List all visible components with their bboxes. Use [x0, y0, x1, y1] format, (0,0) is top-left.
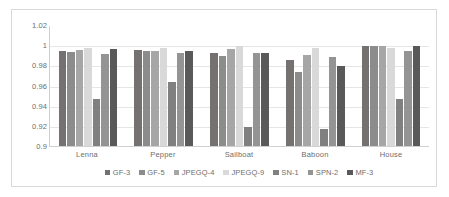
bar-group	[353, 26, 429, 146]
bar[interactable]	[261, 53, 269, 146]
axis-baseline	[50, 146, 429, 147]
bar[interactable]	[387, 48, 395, 146]
legend-item[interactable]: GF-3	[105, 168, 130, 177]
bar-groups	[50, 26, 429, 146]
y-axis-tick-label: 0.92	[14, 123, 47, 131]
legend-item[interactable]: SN-1	[273, 168, 299, 177]
y-axis-tick-label: 0.98	[14, 62, 47, 70]
x-axis-tick-label: Lenna	[49, 150, 125, 159]
bar[interactable]	[101, 54, 109, 146]
legend-item[interactable]: JPEGQ-4	[174, 168, 215, 177]
legend-item[interactable]: GF-5	[139, 168, 164, 177]
x-axis-tick-label: Sailboat	[201, 150, 277, 159]
bar[interactable]	[227, 49, 235, 146]
bar[interactable]	[93, 99, 101, 146]
bar-group	[126, 26, 202, 146]
bar[interactable]	[160, 48, 168, 146]
bar[interactable]	[320, 129, 328, 146]
bar[interactable]	[295, 72, 303, 146]
y-axis-tick-label: 0.94	[14, 103, 47, 111]
plot-area	[49, 26, 429, 147]
bar[interactable]	[286, 60, 294, 146]
chart-canvas: 1.0210.980.960.940.920.9 LennaPepperSail…	[0, 0, 449, 197]
legend-item[interactable]: SPN-2	[308, 168, 339, 177]
x-axis: LennaPepperSailboatBaboonHouse	[49, 150, 429, 159]
chart-root: 1.0210.980.960.940.920.9 LennaPepperSail…	[0, 0, 449, 197]
legend-swatch-icon	[174, 170, 180, 176]
bar[interactable]	[177, 53, 185, 146]
bar-group	[50, 26, 126, 146]
legend-swatch-icon	[308, 170, 314, 176]
chart-legend: GF-3GF-5JPEGQ-4JPEGQ-9SN-1SPN-2MF-3	[49, 168, 429, 177]
y-axis-tick-label: 0.96	[14, 83, 47, 91]
legend-label: JPEGQ-9	[231, 168, 264, 177]
legend-label: MF-3	[355, 168, 373, 177]
bar[interactable]	[329, 57, 337, 146]
legend-label: GF-3	[113, 168, 130, 177]
bar[interactable]	[185, 51, 193, 146]
bar[interactable]	[151, 51, 159, 146]
legend-label: GF-5	[147, 168, 164, 177]
bar[interactable]	[67, 52, 75, 146]
bar[interactable]	[236, 46, 244, 146]
bar-group	[202, 26, 278, 146]
bar[interactable]	[59, 51, 67, 146]
bar[interactable]	[110, 49, 118, 146]
bar[interactable]	[219, 56, 227, 146]
bar[interactable]	[76, 50, 84, 146]
legend-label: SN-1	[281, 168, 299, 177]
bar[interactable]	[244, 127, 252, 146]
y-axis-tick-label: 1.02	[14, 22, 47, 30]
bar[interactable]	[413, 46, 421, 146]
y-axis-tick-label: 0.9	[14, 143, 47, 151]
y-axis-tick-label: 1	[14, 42, 47, 50]
bar[interactable]	[379, 46, 387, 146]
bar[interactable]	[303, 55, 311, 146]
legend-item[interactable]: JPEGQ-9	[223, 168, 264, 177]
bar[interactable]	[84, 48, 92, 146]
bar[interactable]	[143, 51, 151, 146]
legend-swatch-icon	[105, 170, 111, 176]
legend-label: SPN-2	[316, 168, 339, 177]
bar[interactable]	[404, 51, 412, 146]
bar[interactable]	[362, 46, 370, 146]
bar[interactable]	[337, 66, 345, 146]
bar[interactable]	[253, 53, 261, 146]
bar-group	[277, 26, 353, 146]
legend-swatch-icon	[139, 170, 145, 176]
legend-swatch-icon	[347, 170, 353, 176]
x-axis-tick-label: Pepper	[125, 150, 201, 159]
x-axis-tick-label: Baboon	[277, 150, 353, 159]
bar[interactable]	[210, 53, 218, 146]
x-axis-tick-label: House	[353, 150, 429, 159]
legend-item[interactable]: MF-3	[347, 168, 373, 177]
legend-swatch-icon	[273, 170, 279, 176]
y-axis: 1.0210.980.960.940.920.9	[14, 22, 47, 154]
bar[interactable]	[168, 82, 176, 146]
legend-label: JPEGQ-4	[182, 168, 215, 177]
bar[interactable]	[134, 50, 142, 146]
bar[interactable]	[396, 99, 404, 146]
bar[interactable]	[312, 48, 320, 146]
legend-swatch-icon	[223, 170, 229, 176]
bar[interactable]	[370, 46, 378, 146]
